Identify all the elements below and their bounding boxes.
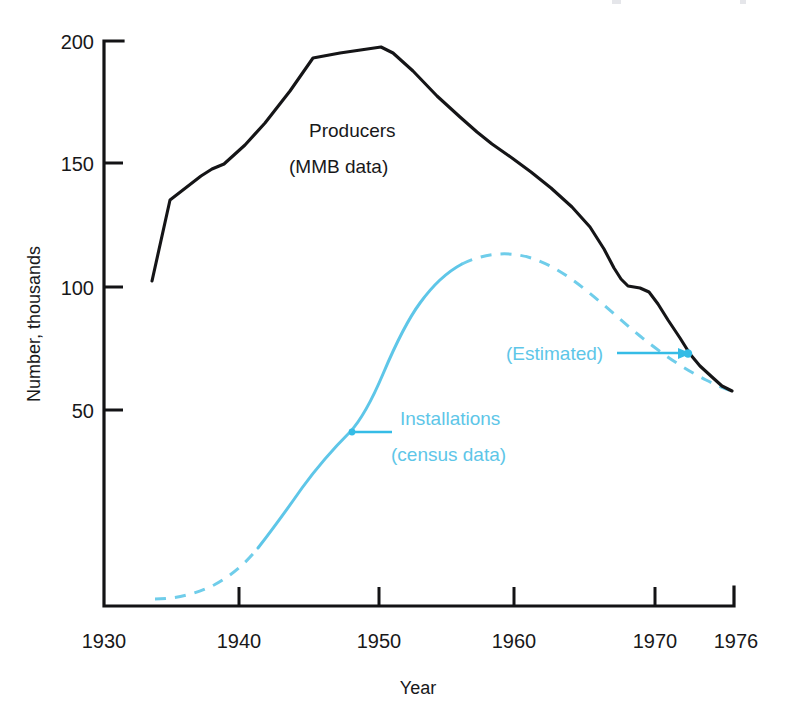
y-tick-label-50: 50 [72,400,94,422]
y-tick-label-100: 100 [61,277,94,299]
installations-curve-solid [258,264,462,548]
producers-curve [152,47,732,391]
x-tick-label-1940: 1940 [217,630,262,652]
x-tick-label-1976: 1976 [714,630,759,652]
y-tick-label-200: 200 [61,31,94,53]
x-tick-label-1960: 1960 [492,630,537,652]
installations-curve-dashed-early [155,548,258,599]
estimated-leader-arrow [617,348,692,359]
producers-label-line1: Producers [309,120,396,141]
x-tick-label-1950: 1950 [357,630,402,652]
installations-label-line2: (census data) [391,444,506,465]
installations-leader-dot [349,429,356,436]
x-tick-label-1970: 1970 [633,630,678,652]
y-axis-ticks [104,163,123,410]
installations-label-line1: Installations [400,408,500,429]
chart-page: 200 150 100 50 1930 1940 1950 1960 1970 … [0,0,791,713]
x-axis-ticks [239,587,655,606]
estimated-label: (Estimated) [506,343,603,364]
y-axis-title: Number, thousands [24,246,44,402]
line-chart-figure: 200 150 100 50 1930 1940 1950 1960 1970 … [0,0,791,713]
installations-leader [349,429,392,436]
producers-label-line2: (MMB data) [289,156,388,177]
axis-lines [104,41,734,606]
x-axis-title: Year [400,678,436,698]
x-tick-label-1930: 1930 [82,630,127,652]
page-artifact-marks [612,0,746,4]
y-tick-label-150: 150 [61,153,94,175]
installations-curve-dashed-late [462,254,732,391]
